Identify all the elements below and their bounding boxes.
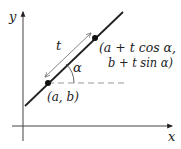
x-axis-label: x (168, 129, 176, 144)
angle-label: α (73, 60, 82, 75)
end-point (92, 35, 98, 41)
distance-arrow (45, 33, 91, 77)
parametric-line-diagram: x y t α (a, b) (a + t cos α, b + t sin α… (0, 0, 181, 149)
end-point-label-line1: (a + t cos α, (99, 41, 176, 55)
end-point-label-line2: b + t sin α) (108, 56, 173, 70)
y-axis-label: y (8, 9, 17, 24)
distance-label: t (56, 38, 62, 53)
start-point (45, 80, 51, 86)
start-point-label: (a, b) (47, 90, 79, 104)
